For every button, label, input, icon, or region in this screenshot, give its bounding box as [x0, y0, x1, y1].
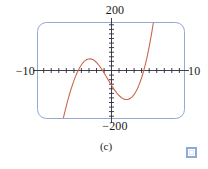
y-axis-max-label: 200: [95, 3, 135, 18]
figure-panel: 200 −200 −10 10 (c): [0, 0, 208, 169]
x-axis-min-label: −10: [9, 64, 35, 79]
y-axis-min-label: −200: [93, 119, 137, 134]
blue-square-icon[interactable]: [186, 147, 197, 158]
x-axis-max-label: 10: [188, 64, 208, 79]
figure-caption: (c): [84, 140, 128, 152]
